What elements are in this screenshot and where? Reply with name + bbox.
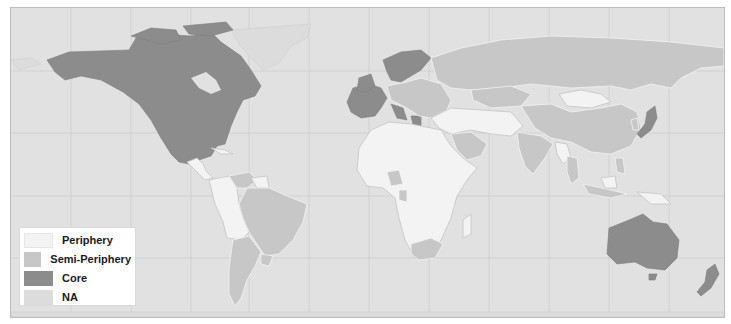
region-russia [431,36,724,90]
swatch-na [24,290,53,305]
map-legend: Periphery Semi-Periphery Core NA [19,227,136,306]
region-scandinavia [383,50,431,82]
region-north-america [47,32,261,164]
region-australia [607,214,679,270]
legend-item-periphery: Periphery [24,231,131,249]
region-new-zealand [697,264,719,296]
region-mongolia [559,90,611,108]
swatch-periphery [24,233,53,248]
region-india [517,132,553,174]
legend-label: NA [62,291,78,303]
legend-label: Semi-Periphery [50,253,131,265]
region-middle-east [431,108,523,136]
legend-item-semi-periphery: Semi-Periphery [24,250,131,268]
legend-label: Core [62,272,87,284]
swatch-semi-periphery [24,252,41,267]
legend-label: Periphery [62,234,113,246]
swatch-core [24,271,53,286]
legend-item-core: Core [24,269,131,287]
legend-item-na: NA [24,288,131,306]
region-argentina [229,236,261,306]
